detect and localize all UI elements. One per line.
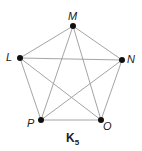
node-n — [119, 57, 125, 63]
node-label-n: N — [127, 53, 135, 65]
node-label-l: L — [6, 51, 12, 63]
graph-title: K5 — [66, 131, 79, 147]
graph-title-subscript: 5 — [75, 138, 79, 147]
edge-M-P — [41, 26, 73, 120]
k5-graph-diagram: M L N P O K5 — [0, 0, 142, 151]
graph-edges-and-nodes — [0, 0, 142, 151]
edge-M-O — [73, 26, 101, 120]
node-label-m: M — [68, 10, 77, 22]
node-p — [38, 117, 44, 123]
edge-N-P — [41, 60, 122, 120]
edge-L-O — [20, 58, 101, 120]
edge-M-N — [73, 26, 122, 60]
node-label-o: O — [103, 120, 112, 132]
node-l — [17, 55, 23, 61]
edge-M-L — [20, 26, 73, 58]
edge-L-N — [20, 58, 122, 60]
edge-L-P — [20, 58, 41, 120]
node-label-p: P — [27, 117, 34, 129]
node-m — [70, 23, 76, 29]
graph-title-main: K — [66, 131, 75, 145]
edge-N-O — [101, 60, 122, 120]
